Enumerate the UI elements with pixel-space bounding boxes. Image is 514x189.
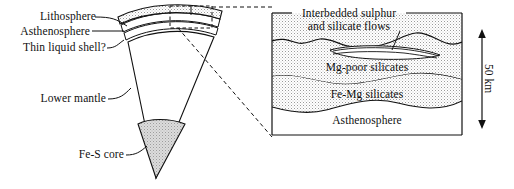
label-thin-liquid-shell: Thin liquid shell? [4, 41, 106, 55]
label-lithosphere: Lithosphere [14, 10, 96, 24]
label-asthenosphere: Asthenosphere [6, 25, 90, 39]
scale-bar-arrowhead-bottom [478, 120, 486, 129]
inset-layer-label-mg-poor-silicates: Mg-poor silicates [305, 61, 429, 75]
scale-bar-arrowhead-top [478, 29, 486, 38]
interior-structure-figure: Lithosphere Asthenosphere Thin liquid sh… [0, 0, 514, 189]
lower-mantle-region [128, 31, 214, 178]
inset-layer-label-fe-mg-silicates: Fe-Mg silicates [310, 88, 424, 102]
fe-s-core-leader [126, 146, 147, 155]
thin-liquid-shell-leader [107, 40, 124, 48]
label-lower-mantle: Lower mantle [22, 92, 106, 106]
fe-s-core-region [138, 120, 185, 179]
inset-header-line-2: and silicate flows [292, 20, 406, 34]
lower-mantle-leader [108, 88, 131, 99]
inset-header-line-1: Interbedded sulphur [292, 7, 406, 21]
scale-bar-label: 50 km [483, 64, 495, 93]
label-fe-s-core: Fe-S core [60, 148, 124, 162]
inset-layer-label-asthenosphere: Asthenosphere [310, 114, 424, 128]
